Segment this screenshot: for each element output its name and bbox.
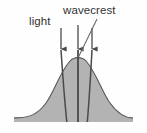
- wavecrest-diagram-svg: [0, 0, 147, 133]
- wavecrest-hill-fill: [14, 58, 133, 122]
- wavecrest-leader-line: [79, 19, 98, 57]
- wavecrest-label: wavecrest: [63, 5, 116, 17]
- light-label: light: [29, 16, 51, 28]
- refraction-wavecrest-figure: light wavecrest: [0, 0, 147, 133]
